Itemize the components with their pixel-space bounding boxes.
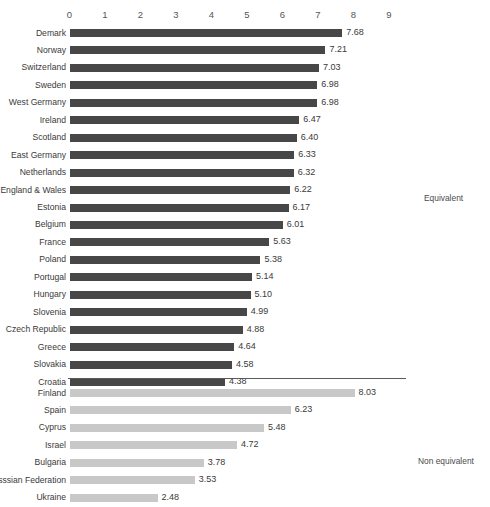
- bar-non-equivalent: [70, 441, 238, 449]
- category-label-equivalent: Estonia: [0, 202, 66, 213]
- bar-value-label: 4.72: [241, 439, 259, 450]
- bar-row: Norway7.21: [0, 45, 490, 62]
- bar-row: West Germany6.98: [0, 97, 490, 114]
- bar-value-label: 5.63: [273, 236, 291, 247]
- category-label-equivalent: Demark: [0, 28, 66, 39]
- category-label-equivalent: Slovakia: [0, 359, 66, 370]
- category-label-equivalent: Croatia: [0, 377, 66, 388]
- category-label-equivalent: Norway: [0, 45, 66, 56]
- bar-row: Greece4.64: [0, 342, 490, 359]
- category-label-equivalent: Poland: [0, 254, 66, 265]
- bar-value-label: 6.98: [321, 79, 339, 90]
- bar-value-label: 6.22: [294, 184, 312, 195]
- category-label-equivalent: Scotland: [0, 132, 66, 143]
- category-label-non-equivalent: Finland: [0, 388, 66, 399]
- category-label-equivalent: Netherlands: [0, 167, 66, 178]
- bar-value-label: 5.10: [255, 289, 273, 300]
- bar-equivalent: [70, 378, 225, 386]
- bar-equivalent: [70, 134, 297, 142]
- bar-row: Bulgaria3.78: [0, 457, 490, 474]
- category-label-equivalent: Slovenia: [0, 307, 66, 318]
- bar-row: Switzerland7.03: [0, 62, 490, 79]
- bar-row: Netherlands6.32: [0, 167, 490, 184]
- category-label-equivalent: England & Wales: [0, 185, 66, 196]
- bar-row: Slovenia4.99: [0, 307, 490, 324]
- bar-value-label: 7.21: [329, 44, 347, 55]
- bar-equivalent: [70, 221, 283, 229]
- bar-value-label: 6.23: [295, 404, 313, 415]
- category-label-equivalent: Greece: [0, 342, 66, 353]
- bar-value-label: 5.14: [256, 271, 274, 282]
- bar-value-label: 6.98: [321, 97, 339, 108]
- category-label-equivalent: Hungary: [0, 289, 66, 300]
- bar-value-label: 3.78: [208, 457, 226, 468]
- bar-value-label: 7.03: [323, 62, 341, 73]
- bar-non-equivalent: [70, 424, 265, 432]
- category-label-non-equivalent: Russsian Federation: [0, 475, 66, 486]
- category-label-equivalent: Sweden: [0, 80, 66, 91]
- plot-area: Demark7.68Norway7.21Switzerland7.03Swede…: [0, 0, 490, 507]
- category-label-non-equivalent: Israel: [0, 440, 66, 451]
- bar-equivalent: [70, 186, 291, 194]
- bar-row: Hungary5.10: [0, 289, 490, 306]
- category-label-non-equivalent: Spain: [0, 405, 66, 416]
- bar-value-label: 6.17: [293, 202, 311, 213]
- bar-non-equivalent: [70, 459, 204, 467]
- bar-value-label: 4.58: [236, 359, 254, 370]
- bar-non-equivalent: [70, 406, 291, 414]
- bar-equivalent: [70, 326, 243, 334]
- bar-chart: 0123456789 Demark7.68Norway7.21Switzerla…: [0, 0, 490, 507]
- bar-value-label: 5.48: [268, 422, 286, 433]
- bar-row: Portugal5.14: [0, 272, 490, 289]
- bar-value-label: 6.01: [287, 219, 305, 230]
- bar-equivalent: [70, 238, 270, 246]
- bar-row: Ukraine2.48: [0, 492, 490, 507]
- bar-value-label: 6.32: [298, 167, 316, 178]
- bar-value-label: 4.99: [251, 306, 269, 317]
- bar-row: Estonia6.17: [0, 202, 490, 219]
- bar-equivalent: [70, 169, 294, 177]
- bar-row: Demark7.68: [0, 28, 490, 45]
- category-label-equivalent: Ireland: [0, 115, 66, 126]
- category-label-equivalent: East Germany: [0, 150, 66, 161]
- bar-equivalent: [70, 343, 235, 351]
- bar-equivalent: [70, 204, 289, 212]
- bar-equivalent: [70, 99, 318, 107]
- bar-value-label: 6.47: [303, 114, 321, 125]
- category-label-non-equivalent: Ukraine: [0, 492, 66, 503]
- bar-equivalent: [70, 81, 318, 89]
- group-caption-non-equivalent: Non equivalent: [418, 456, 474, 467]
- bar-equivalent: [70, 116, 300, 124]
- bar-equivalent: [70, 273, 252, 281]
- bar-value-label: 4.88: [247, 324, 265, 335]
- bar-equivalent: [70, 46, 326, 54]
- bar-row: Cyprus5.48: [0, 422, 490, 439]
- bar-equivalent: [70, 308, 247, 316]
- bar-equivalent: [70, 361, 233, 369]
- group-caption-equivalent: Equivalent: [424, 193, 463, 204]
- category-label-equivalent: Czech Republic: [0, 324, 66, 335]
- bar-row: Sweden6.98: [0, 80, 490, 97]
- category-label-equivalent: West Germany: [0, 97, 66, 108]
- bar-value-label: 2.48: [162, 492, 180, 503]
- bar-non-equivalent: [70, 494, 158, 502]
- bar-non-equivalent: [70, 389, 355, 397]
- bar-equivalent: [70, 151, 295, 159]
- bar-row: Scotland6.40: [0, 132, 490, 149]
- bar-equivalent: [70, 29, 343, 37]
- bar-value-label: 3.53: [199, 474, 217, 485]
- bar-row: England & Wales6.22: [0, 185, 490, 202]
- bar-row: Finland8.03: [0, 388, 490, 405]
- bar-row: Czech Republic4.88: [0, 324, 490, 341]
- bar-value-label: 6.33: [298, 149, 316, 160]
- bar-non-equivalent: [70, 476, 195, 484]
- bar-equivalent: [70, 256, 261, 264]
- bar-row: France5.63: [0, 237, 490, 254]
- bar-value-label: 8.03: [359, 387, 377, 398]
- category-label-equivalent: France: [0, 237, 66, 248]
- category-label-equivalent: Switzerland: [0, 62, 66, 73]
- bar-row: Israel4.72: [0, 440, 490, 457]
- bar-row: Poland5.38: [0, 254, 490, 271]
- bar-row: Russsian Federation3.53: [0, 475, 490, 492]
- bar-equivalent: [70, 291, 251, 299]
